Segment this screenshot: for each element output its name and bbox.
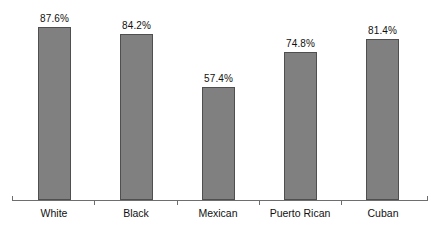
category-label-cuban: Cuban — [368, 207, 399, 220]
bar-group-puerto-rican[interactable]: 74.8% — [284, 52, 317, 200]
bar-group-cuban[interactable]: 81.4% — [366, 39, 399, 200]
bar-cuban[interactable] — [366, 39, 399, 200]
bar-value-label: 87.6% — [40, 13, 69, 24]
axis-tick — [259, 201, 260, 205]
bar-value-label: 74.8% — [286, 38, 315, 49]
category-label-mexican: Mexican — [198, 207, 237, 220]
bar-mexican[interactable] — [202, 87, 235, 200]
category-label-white: White — [41, 207, 68, 220]
bar-group-white[interactable]: 87.6% — [38, 27, 71, 200]
bar-white[interactable] — [38, 27, 71, 200]
axis-endcap-left — [12, 196, 13, 200]
axis-tick — [94, 201, 95, 205]
bar-value-label: 84.2% — [122, 20, 151, 31]
bar-puerto-rican[interactable] — [284, 52, 317, 200]
bar-group-mexican[interactable]: 57.4% — [202, 87, 235, 200]
category-label-black: Black — [123, 207, 149, 220]
bar-black[interactable] — [120, 34, 153, 200]
axis-tick — [177, 201, 178, 205]
axis-tick — [341, 201, 342, 205]
plot-area: 87.6% 84.2% 57.4% 74.8% 81.4% White Blac… — [0, 0, 438, 229]
axis-endcap-right — [427, 196, 428, 200]
bar-value-label: 57.4% — [204, 73, 233, 84]
category-axis-line — [12, 200, 428, 201]
bar-value-label: 81.4% — [368, 25, 397, 36]
bar-chart: 87.6% 84.2% 57.4% 74.8% 81.4% White Blac… — [0, 0, 438, 229]
bar-group-black[interactable]: 84.2% — [120, 34, 153, 200]
category-label-puerto-rican: Puerto Rican — [270, 207, 331, 220]
